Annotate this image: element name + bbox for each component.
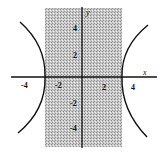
y-tick-label: -4 (70, 124, 77, 133)
y-tick-label: 4 (73, 24, 77, 33)
x-tick-label: 4 (131, 83, 135, 92)
x-tick-label: 2 (102, 83, 106, 92)
hyperbola-plot: x y -4 -2 2 4 4 2 -2 -4 (0, 0, 164, 157)
y-tick-label: 2 (73, 51, 77, 60)
hyperbola-right-branch (122, 25, 148, 137)
x-tick-label: -2 (55, 81, 62, 90)
x-axis-label: x (142, 68, 147, 77)
x-tick-label: -4 (21, 81, 28, 90)
y-tick-label: -2 (70, 99, 77, 108)
y-axis-label: y (85, 8, 90, 17)
